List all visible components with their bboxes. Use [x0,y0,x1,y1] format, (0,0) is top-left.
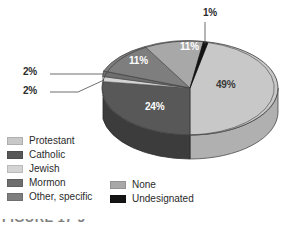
slice-value-catholic: 24% [145,102,164,112]
legend-item-jewish: Jewish [7,162,92,175]
legend-label-protestant: Protestant [29,135,75,146]
slice-value-other-specific: 11% [129,56,148,66]
legend-swatch-none [110,181,126,189]
legend-swatch-protestant [7,137,23,145]
legend-item-other-specific: Other, specific [7,190,92,203]
slice-value-jewish: 2% [23,67,37,77]
legend-label-jewish: Jewish [29,163,60,174]
leader-line-jewish [50,80,104,92]
legend-swatch-undesignated [110,195,126,203]
legend-swatch-other-specific [7,193,23,201]
legend-item-protestant: Protestant [7,134,92,147]
legend-swatch-jewish [7,165,23,173]
legend-item-mormon: Mormon [7,176,92,189]
figure-caption-cropped: FIGURE 17-5 [0,219,285,227]
legend-swatch-mormon [7,179,23,187]
slice-value-none: 11% [180,42,199,52]
legend-label-undesignated: Undesignated [132,193,194,204]
legend-column-left: Protestant Catholic Jewish Mormon Other,… [7,134,92,204]
pie-chart-figure: 49% 24% 11% 11% 1% 2% 2% Protestant Cath… [0,0,285,227]
legend-swatch-catholic [7,151,23,159]
legend-label-catholic: Catholic [29,149,65,160]
legend-item-undesignated: Undesignated [110,192,194,205]
legend-label-none: None [132,179,156,190]
legend-label-mormon: Mormon [29,177,66,188]
figure-caption-text: FIGURE 17-5 [2,219,85,225]
slice-value-protestant: 49% [216,80,235,90]
legend-label-other-specific: Other, specific [29,191,92,202]
slice-value-undesignated: 1% [203,8,217,18]
legend-column-right: None Undesignated [110,178,194,206]
legend-item-none: None [110,178,194,191]
slice-value-mormon: 2% [23,86,37,96]
legend-item-catholic: Catholic [7,148,92,161]
